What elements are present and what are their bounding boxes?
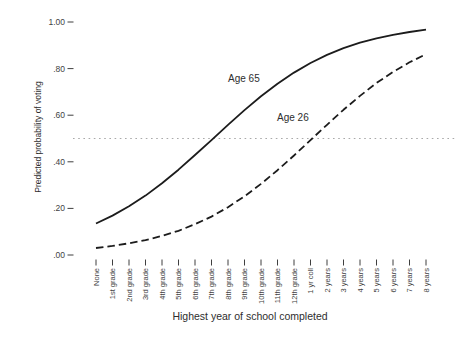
x-tick-label: 1st grade — [108, 268, 117, 299]
series-line-age-26 — [96, 54, 426, 248]
x-tick-label: 6th grade — [191, 268, 200, 300]
x-tick-label: 11th grade — [273, 268, 282, 303]
y-tick-label: .20 — [53, 203, 65, 213]
x-tick-label: 2nd grade — [125, 268, 134, 302]
series-label-age-26: Age 26 — [277, 112, 309, 123]
x-tick-label: 3rd grade — [141, 268, 150, 300]
x-tick-label: 4 years — [356, 268, 365, 293]
predicted-voting-probability-figure: 1.00.80.60.40.20.00 None1st grade2nd gra… — [0, 0, 472, 349]
x-tick-label: 2 years — [323, 268, 332, 293]
y-tick-label: 1.00 — [48, 17, 65, 27]
x-tick-label: 9th grade — [240, 268, 249, 300]
x-tick-label: 10th grade — [257, 268, 266, 304]
x-tick-label: 7th grade — [207, 268, 216, 300]
x-tick-label: 8 years — [422, 268, 431, 293]
y-tick-label: .40 — [53, 157, 65, 167]
x-tick-label: 5 years — [372, 268, 381, 293]
y-axis: 1.00.80.60.40.20.00 — [48, 17, 73, 260]
y-tick-label: .80 — [53, 64, 65, 74]
x-axis-title: Highest year of school completed — [172, 310, 327, 322]
series-label-age-65: Age 65 — [228, 73, 260, 84]
x-axis: None1st grade2nd grade3rd grade4th grade… — [92, 260, 431, 304]
series-inline-labels: Age 65Age 26 — [228, 73, 309, 123]
x-tick-label: 6 years — [389, 268, 398, 293]
x-tick-label: 7 years — [405, 268, 414, 293]
x-tick-label: 8th grade — [224, 268, 233, 300]
y-tick-label: .60 — [53, 110, 65, 120]
x-tick-label: 4th grade — [158, 268, 167, 300]
x-tick-label: 12th grade — [290, 268, 299, 304]
x-tick-label: 3 years — [339, 268, 348, 293]
y-tick-label: .00 — [53, 250, 65, 260]
y-axis-title: Predicted probability of voting — [33, 81, 43, 193]
x-tick-label: 1 yr coll — [306, 268, 315, 294]
series-line-age-65 — [96, 30, 426, 224]
chart-canvas: 1.00.80.60.40.20.00 None1st grade2nd gra… — [0, 0, 472, 349]
x-tick-label: 5th grade — [174, 268, 183, 300]
x-tick-label: None — [92, 268, 101, 286]
